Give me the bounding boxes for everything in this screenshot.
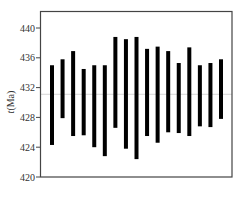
age-range-bar: [124, 39, 128, 149]
age-range-bar: [135, 37, 139, 159]
age-range-bar: [61, 59, 65, 118]
y-tick-label: 432: [20, 82, 35, 93]
y-axis-ticks: 420424428432436440: [20, 23, 40, 183]
age-range-bar: [145, 49, 149, 136]
age-range-bar: [166, 51, 170, 132]
age-range-bar: [208, 63, 212, 127]
age-range-bar: [219, 59, 223, 119]
y-tick-label: 424: [20, 142, 35, 153]
age-range-bar: [50, 65, 54, 145]
y-tick-label: 436: [20, 52, 35, 63]
age-range-bar: [82, 69, 86, 135]
age-range-bar: [198, 65, 202, 126]
bars: [50, 37, 223, 159]
y-tick-label: 440: [20, 23, 35, 34]
age-range-bar: [71, 51, 75, 136]
age-range-bar: [156, 47, 160, 143]
age-range-bar: [187, 47, 191, 136]
y-tick-label: 428: [20, 112, 35, 123]
age-range-bar: [92, 65, 96, 147]
age-range-bar: [103, 65, 107, 156]
age-range-bar: [177, 63, 181, 133]
y-tick-label: 420: [20, 172, 35, 183]
age-range-bar: [113, 37, 117, 128]
age-range-chart: 420424428432436440 t(Ma): [0, 0, 245, 197]
y-axis-label: t(Ma): [5, 91, 17, 114]
